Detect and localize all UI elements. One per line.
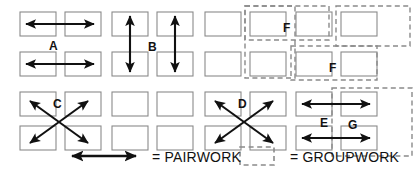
seat-box — [112, 92, 148, 116]
pattern-label-d-pairwork: D — [238, 98, 247, 110]
pattern-label-b-pairwork: B — [148, 41, 157, 53]
diagram-canvas: ABCDEFFG = PAIRWORK= GROUPWORK — [0, 0, 416, 175]
pattern-label-f-groupwork: F — [283, 22, 290, 34]
pattern-label-c-pairwork: C — [53, 98, 62, 110]
seat-box — [157, 92, 193, 116]
seat-box — [250, 52, 286, 76]
seat-box — [20, 92, 56, 116]
seat-box — [341, 12, 377, 36]
seat-box — [250, 12, 286, 36]
pattern-label-g-groupwork: G — [348, 119, 357, 131]
legend-label-groupwork: = GROUPWORK — [290, 150, 399, 164]
seat-box — [296, 12, 332, 36]
pattern-label-a-pairwork: A — [49, 40, 58, 52]
seat-box — [205, 92, 241, 116]
seat-box — [341, 52, 377, 76]
seat-box — [112, 126, 148, 150]
legend-label-pairwork: = PAIRWORK — [152, 150, 241, 164]
pattern-label-f-groupwork: F — [329, 62, 336, 74]
seat-box — [296, 52, 332, 76]
seat-box — [205, 52, 241, 76]
seat-box — [157, 126, 193, 150]
pattern-label-e-pairwork: E — [320, 117, 328, 129]
seat-box — [205, 12, 241, 36]
